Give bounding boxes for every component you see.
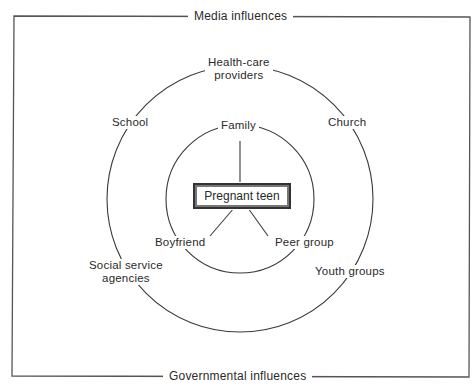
church-label: Church <box>325 116 369 129</box>
pregnant-teen-box: Pregnant teen <box>193 183 291 209</box>
health-care-providers-label: Health-care providers <box>205 56 273 82</box>
peer-group-connector <box>248 208 268 236</box>
school-label: School <box>109 116 151 129</box>
family-label: Family <box>218 119 259 132</box>
governmental-influences-label: Governmental influences <box>163 370 312 383</box>
social-service-agencies-label: Social service agencies <box>86 259 166 285</box>
boyfriend-label: Boyfriend <box>152 236 208 249</box>
media-influences-label: Media influences <box>188 10 293 23</box>
youth-groups-label: Youth groups <box>312 265 388 278</box>
boyfriend-connector <box>210 208 234 236</box>
peer-group-label: Peer group <box>272 236 337 249</box>
